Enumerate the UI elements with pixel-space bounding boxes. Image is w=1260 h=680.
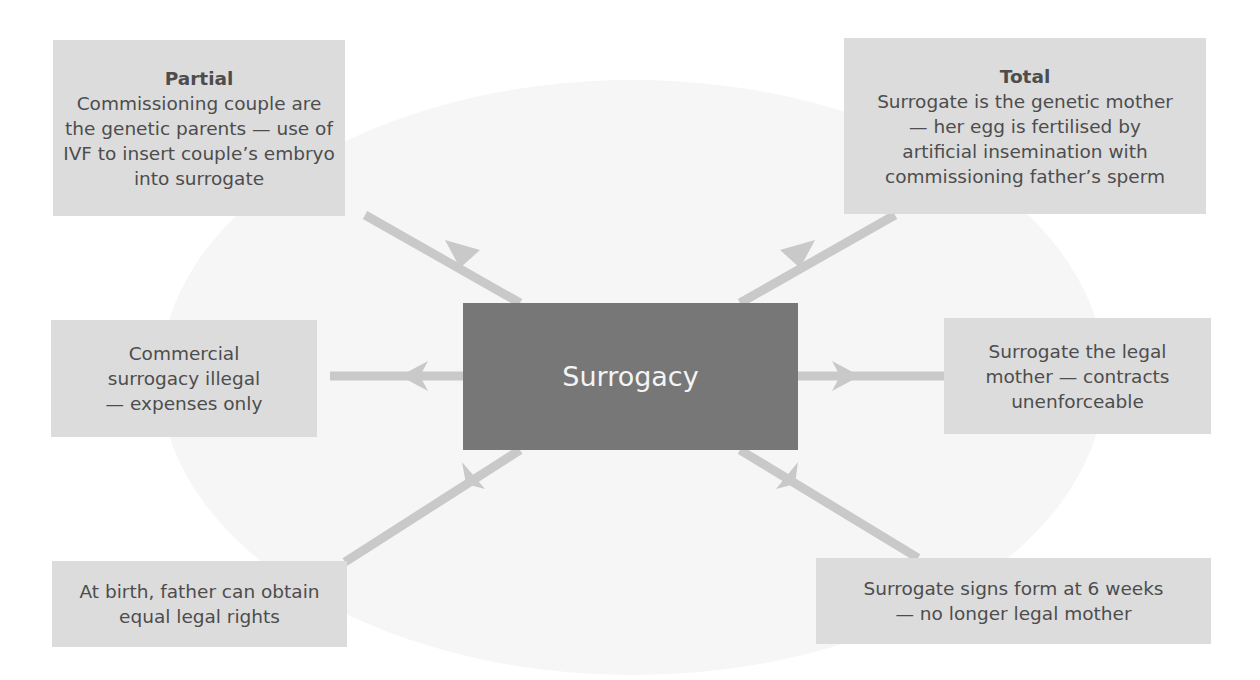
node-line: — expenses only	[106, 391, 263, 416]
node-title: Partial	[165, 66, 234, 91]
node-line: into surrogate	[134, 166, 264, 191]
node-line: equal legal rights	[119, 604, 280, 629]
node-line: At birth, father can obtain	[79, 579, 319, 604]
arrow-bottom-right	[740, 450, 918, 558]
node-total: Total Surrogate is the genetic mother — …	[844, 38, 1206, 214]
node-father-rights: At birth, father can obtain equal legal …	[52, 561, 347, 647]
node-commercial-illegal: Commercial surrogacy illegal — expenses …	[51, 320, 317, 437]
node-line: Surrogate is the genetic mother	[877, 89, 1173, 114]
node-line: surrogacy illegal	[108, 366, 260, 391]
arrow-bottom-left	[345, 450, 520, 562]
node-line: commissioning father’s sperm	[885, 164, 1165, 189]
node-line: unenforceable	[1011, 389, 1144, 414]
node-line: — no longer legal mother	[895, 601, 1131, 626]
node-title: Total	[1000, 64, 1051, 89]
node-signs-form: Surrogate signs form at 6 weeks — no lon…	[816, 558, 1211, 644]
node-line: the genetic parents — use of	[65, 116, 333, 141]
node-line: Surrogate the legal	[989, 339, 1167, 364]
central-node-surrogacy: Surrogacy	[463, 303, 798, 450]
node-line: Commercial	[129, 341, 240, 366]
node-line: mother — contracts	[985, 364, 1169, 389]
node-legal-mother: Surrogate the legal mother — contracts u…	[944, 318, 1211, 434]
node-partial: Partial Commissioning couple are the gen…	[53, 40, 345, 216]
node-line: artificial insemination with	[902, 139, 1147, 164]
arrow-top-right	[740, 215, 895, 303]
node-line: IVF to insert couple’s embryo	[63, 141, 335, 166]
node-line: — her egg is fertilised by	[909, 114, 1141, 139]
arrow-top-left	[365, 215, 520, 303]
node-line: Surrogate signs form at 6 weeks	[863, 576, 1163, 601]
node-line: Commissioning couple are	[77, 91, 322, 116]
